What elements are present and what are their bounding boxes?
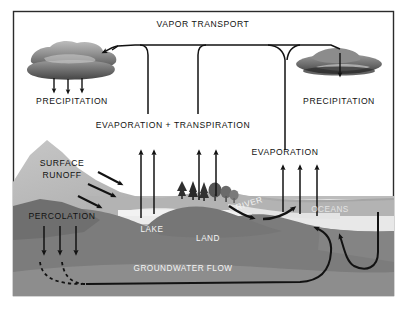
- label-groundwater-flow: GROUNDWATER FLOW: [134, 264, 233, 273]
- label-surface-runoff-line1: SURFACE: [40, 158, 84, 168]
- label-evaporation: EVAPORATION: [252, 147, 319, 157]
- label-precipitation-left: PRECIPITATION: [36, 96, 108, 106]
- label-evaporation-transpiration: EVAPORATION + TRANSPIRATION: [96, 120, 250, 130]
- label-precipitation-right: PRECIPITATION: [303, 96, 375, 106]
- label-lake: LAKE: [141, 225, 164, 234]
- water-cycle-figure: VAPOR TRANSPORT PRECIPITATION PRECIPITAT…: [0, 0, 407, 313]
- label-percolation: PERCOLATION: [28, 211, 95, 221]
- label-surface-runoff-line2: RUNOFF: [42, 170, 81, 180]
- label-land: LAND: [196, 234, 220, 243]
- water-cycle-canvas: VAPOR TRANSPORT PRECIPITATION PRECIPITAT…: [0, 0, 407, 313]
- label-oceans: OCEANS: [311, 205, 349, 214]
- label-vapor-transport: VAPOR TRANSPORT: [157, 19, 250, 29]
